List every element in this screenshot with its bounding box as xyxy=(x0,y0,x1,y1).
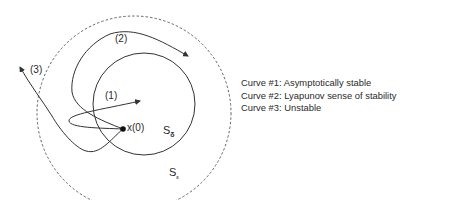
legend-item-curve-3: Curve #3: Unstable xyxy=(241,102,396,115)
curve-3-label: (3) xyxy=(30,64,42,75)
legend-item-curve-1: Curve #1: Asymptotically stable xyxy=(241,77,396,90)
curve-2 xyxy=(72,32,188,129)
s-epsilon-sub: ε xyxy=(176,174,179,180)
legend-item-curve-2: Curve #2: Lyapunov sense of stability xyxy=(241,90,396,103)
s-epsilon-label: Sε xyxy=(169,166,179,180)
s-delta-label: Sδ xyxy=(163,124,175,138)
s-delta-sub: δ xyxy=(170,131,174,138)
s-delta-circle xyxy=(93,53,195,155)
legend: Curve #1: Asymptotically stable Curve #2… xyxy=(241,77,396,115)
curve-2-label: (2) xyxy=(115,33,127,44)
curve-1-label: (1) xyxy=(105,90,117,101)
s-epsilon-circle xyxy=(37,16,231,200)
origin-label: x(0) xyxy=(127,122,144,133)
origin-point xyxy=(120,126,126,132)
